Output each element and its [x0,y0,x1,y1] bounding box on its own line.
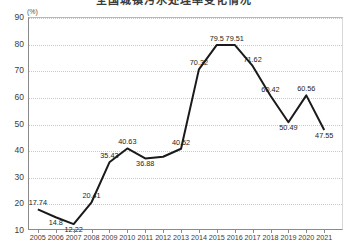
x-axis-tick [74,229,75,233]
data-point-label: 14.8 [49,218,63,227]
data-point-label: 36.88 [136,159,154,168]
series-polyline [38,45,324,224]
x-axis-tick [235,229,236,233]
x-axis-tick [163,229,164,233]
x-axis-tick [306,229,307,233]
y-axis-tick-label: 90 [0,12,24,22]
x-axis-tick [181,229,182,233]
x-axis-tick [324,229,325,233]
data-point-label: 70.32 [190,58,208,67]
data-point-label: 50.49 [279,123,297,132]
data-point-label: 40.52 [172,138,190,147]
data-point-label: 17.74 [29,198,47,207]
y-axis-tick-label: 50 [0,119,24,129]
data-point-label: 60.42 [261,85,279,94]
data-point-label: 71.62 [243,55,261,64]
y-axis-tick-label: 10 [0,225,24,235]
x-axis-tick [92,229,93,233]
y-axis-tick-label: 30 [0,172,24,182]
y-axis-tick-label: 20 [0,198,24,208]
y-axis-tick-label: 70 [0,65,24,75]
x-axis-tick [271,229,272,233]
x-axis-tick [288,229,289,233]
data-point-label: 79.5 [210,34,224,43]
data-point-label: 20.41 [82,191,100,200]
data-point-label: 60.56 [297,84,315,93]
page-title: 全国城镇污水处理率变化情况 [96,0,252,7]
x-axis-tick [145,229,146,233]
x-axis-tick [38,229,39,233]
data-point-label: 35.43 [100,151,118,160]
chart-title-clipped: 全国城镇污水处理率变化情况 [0,0,347,9]
chart-root: 全国城镇污水处理率变化情况 (%) 17.7414.812.2220.4135.… [0,0,347,252]
x-axis-tick-label: 2021 [311,233,337,242]
data-point-label: 47.55 [315,131,333,140]
x-axis-tick [127,229,128,233]
data-point-label: 79.51 [226,34,244,43]
x-axis-tick [217,229,218,233]
y-axis-unit-label: (%) [27,8,38,15]
data-point-label: 40.63 [118,137,136,146]
x-axis-tick [109,229,110,233]
x-axis-tick [56,229,57,233]
x-axis-tick [199,229,200,233]
y-axis-tick-label: 40 [0,145,24,155]
y-axis-tick-label: 60 [0,92,24,102]
y-axis-tick-label: 80 [0,39,24,49]
x-axis-tick [253,229,254,233]
